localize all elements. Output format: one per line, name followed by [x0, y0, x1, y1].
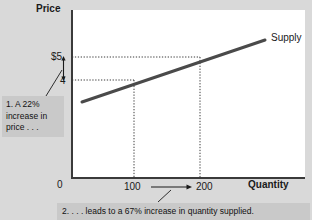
callout-quantity-increase: 2. . . . leads to a 67% increase in quan…: [57, 203, 310, 220]
y-tick-label-4: 4: [60, 76, 66, 86]
origin-label: 0: [57, 180, 63, 190]
x-tick-label-100: 100: [124, 182, 141, 192]
x-tick-label-200: 200: [196, 182, 213, 192]
callout-price-increase: 1. A 22% increase in price . . .: [2, 96, 64, 137]
supply-curve-figure: Price Quantity $5 4 0 100 200 Supply 1. …: [0, 0, 312, 220]
y-axis-title: Price: [36, 4, 60, 14]
quantity-arrow-head-right: [187, 185, 193, 190]
x-axis-title: Quantity: [248, 180, 289, 190]
y-tick-label-5: $5: [51, 52, 62, 62]
supply-curve: [82, 40, 265, 102]
supply-curve-label: Supply: [271, 33, 302, 43]
bottom-note-leader-line: [158, 190, 171, 202]
